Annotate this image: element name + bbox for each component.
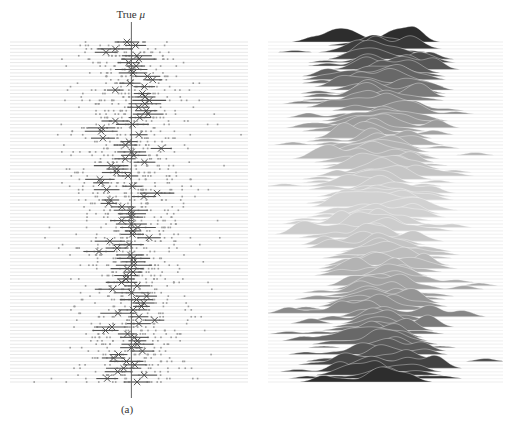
mu-symbol: μ — [140, 8, 146, 20]
true-mu-prefix: True — [116, 8, 139, 20]
interval-scatter-chart — [0, 0, 255, 424]
caption-a: (a) — [107, 403, 147, 415]
true-mu-annotation: True μ — [116, 8, 145, 20]
panel-a-interval-plot: True μ (a) — [0, 0, 255, 424]
panel-b-ridgeline-plot: (b) — [255, 0, 510, 424]
ridgeline-density-chart — [255, 0, 510, 424]
